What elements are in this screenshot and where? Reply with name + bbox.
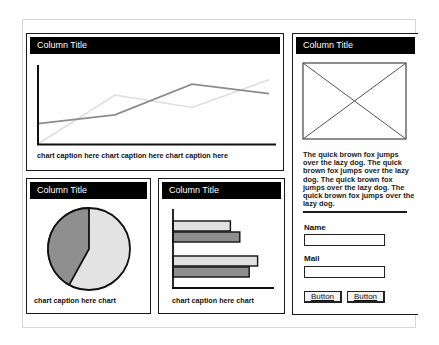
bar-chart-panel: Column Title chart caption here chart: [158, 178, 285, 314]
line-series-dark: [38, 84, 269, 124]
body-paragraph: The quick brown fox jumps over the lazy …: [303, 151, 415, 208]
name-input[interactable]: [304, 234, 385, 246]
section-divider: [303, 211, 407, 213]
chart-caption: chart caption here chart caption here ch…: [37, 151, 228, 160]
bar-light: [173, 221, 230, 231]
side-panel: Column Title The quick brown fox jumps o…: [292, 33, 418, 315]
name-label: Name: [304, 223, 326, 232]
bar-dark: [173, 267, 249, 277]
pie-chart: [27, 179, 152, 315]
bar-chart: [159, 179, 286, 315]
line-chart-panel: Column Title chart caption here chart ca…: [26, 33, 284, 171]
chart-caption: chart caption here chart: [172, 296, 254, 305]
bar-light: [173, 256, 258, 266]
chart-caption: chart caption here chart: [34, 296, 116, 305]
first-button[interactable]: Button: [304, 291, 342, 303]
bar-dark: [173, 232, 240, 242]
second-button[interactable]: Button: [347, 291, 385, 303]
mail-input[interactable]: [304, 266, 385, 278]
pie-chart-panel: Column Title chart caption here chart: [26, 178, 151, 314]
mail-label: Mail: [304, 254, 320, 263]
